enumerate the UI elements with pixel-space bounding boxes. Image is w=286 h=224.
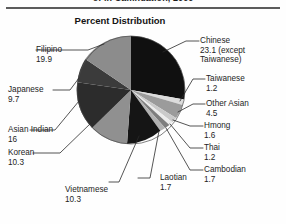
label-thai: Thai 1.2 xyxy=(204,143,220,162)
label-chinese-value: 23.1 (except xyxy=(200,46,245,56)
label-korean: Korean 10.3 xyxy=(8,148,34,167)
label-filipino: Filipino 19.9 xyxy=(36,45,62,64)
label-laotian-value: 1.7 xyxy=(160,183,187,193)
label-vietnamese: Vietnamese 10.3 xyxy=(65,185,108,204)
label-taiwanese-value: 1.2 xyxy=(206,84,245,94)
leader-line-cambodian xyxy=(166,128,203,170)
pie-slices xyxy=(77,36,185,144)
label-laotian: Laotian 1.7 xyxy=(160,173,187,192)
label-other-asian-value: 4.5 xyxy=(206,109,249,119)
leader-line-hmong xyxy=(173,120,203,126)
label-korean-value: 10.3 xyxy=(8,158,34,168)
leader-line-chinese xyxy=(163,41,199,52)
label-hmong-value: 1.6 xyxy=(204,131,230,141)
label-chinese-note: Taiwanese) xyxy=(200,55,245,65)
label-hmong-name: Hmong xyxy=(204,121,230,130)
label-cambodian-value: 1.7 xyxy=(204,175,246,185)
label-chinese-name: Chinese xyxy=(200,36,230,45)
label-taiwanese: Taiwanese 1.2 xyxy=(206,74,245,93)
figure-page: of in Camhuation, 2000 Percent Distribut… xyxy=(0,0,286,224)
label-hmong: Hmong 1.6 xyxy=(204,121,230,140)
label-asian-indian-value: 16 xyxy=(8,135,53,145)
label-japanese-value: 9.7 xyxy=(8,95,44,105)
label-laotian-name: Laotian xyxy=(160,173,187,182)
label-filipino-name: Filipino xyxy=(36,45,62,54)
leader-line-japanese xyxy=(53,78,79,90)
label-asian-indian-name: Asian Indian xyxy=(8,125,53,134)
label-thai-name: Thai xyxy=(204,143,220,152)
label-asian-indian: Asian Indian 16 xyxy=(8,125,53,144)
label-japanese-name: Japanese xyxy=(8,85,44,94)
label-taiwanese-name: Taiwanese xyxy=(206,74,245,83)
label-thai-value: 1.2 xyxy=(204,153,220,163)
label-japanese: Japanese 9.7 xyxy=(8,85,44,104)
label-vietnamese-name: Vietnamese xyxy=(65,185,108,194)
label-vietnamese-value: 10.3 xyxy=(65,195,108,205)
label-other-asian-name: Other Asian xyxy=(206,99,249,108)
label-other-asian: Other Asian 4.5 xyxy=(206,99,249,118)
label-cambodian-name: Cambodian xyxy=(204,165,246,174)
label-korean-name: Korean xyxy=(8,148,34,157)
label-chinese: Chinese 23.1 (except Taiwanese) xyxy=(200,36,245,65)
label-cambodian: Cambodian 1.7 xyxy=(204,165,246,184)
label-filipino-value: 19.9 xyxy=(36,55,62,65)
